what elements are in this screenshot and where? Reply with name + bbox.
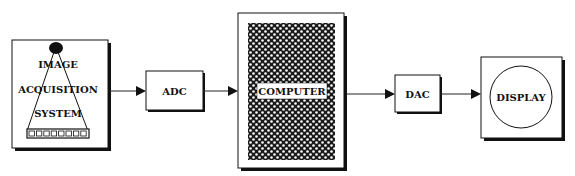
image-acquisition-label-line-3: SYSTEM — [34, 108, 82, 119]
computer-label: COMPUTER — [258, 86, 326, 97]
sensor-cell — [66, 131, 71, 136]
sensor-cell — [36, 131, 41, 136]
sensor-cell — [29, 131, 34, 136]
image-acquisition-label-line-2: ACQUISITION — [17, 84, 98, 95]
arrow-head-icon — [136, 86, 146, 96]
sensor-array-icon — [27, 129, 89, 138]
sensor-cell — [44, 131, 49, 136]
connector-dac-to-display — [440, 89, 481, 99]
sensor-cell — [81, 131, 86, 136]
sensor-cell — [51, 131, 56, 136]
arrow-head-icon — [228, 86, 238, 96]
sensor-cell — [59, 131, 64, 136]
image-acquisition-block: IMAGE ACQUISITION SYSTEM — [12, 40, 111, 151]
camera-lens-icon — [49, 42, 63, 54]
dac-label: DAC — [405, 89, 429, 100]
dac-block: DAC — [395, 75, 442, 114]
connector-computer-to-dac — [347, 89, 395, 99]
image-acquisition-label-line-1: IMAGE — [38, 59, 78, 70]
connector-adc-to-computer — [203, 86, 238, 96]
arrow-head-icon — [385, 89, 395, 99]
connector-image-to-adc — [108, 86, 146, 96]
display-block: DISPLAY — [481, 57, 565, 141]
block-diagram: IMAGE ACQUISITION SYSTEM ADC COMPUTER — [0, 0, 575, 176]
sensor-cell — [73, 131, 78, 136]
display-label: DISPLAY — [496, 92, 546, 103]
computer-block: COMPUTER — [238, 13, 347, 171]
arrow-head-icon — [471, 89, 481, 99]
adc-label: ADC — [161, 86, 186, 97]
adc-block: ADC — [146, 71, 205, 112]
